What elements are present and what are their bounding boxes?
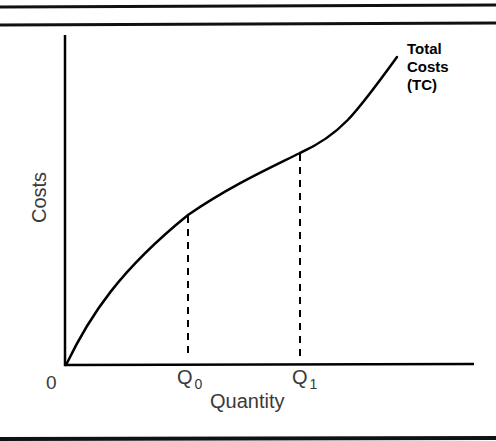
bottom-border — [0, 438, 496, 439]
q1-subscript: 1 — [310, 376, 318, 392]
legend-line-2: Costs — [407, 58, 449, 76]
x-axis-label: Quantity — [210, 390, 284, 413]
q0-subscript: 0 — [195, 376, 203, 392]
top-border-outer — [0, 5, 496, 7]
q1-label: Q1 — [292, 366, 317, 389]
x-axis — [64, 364, 474, 365]
q1-main: Q — [292, 366, 308, 388]
q0-label: Q0 — [177, 366, 202, 389]
series-label-total-costs: Total Costs (TC) — [407, 40, 449, 94]
legend-line-3: (TC) — [407, 76, 449, 94]
y-axis-label: Costs — [28, 172, 51, 223]
origin-label: 0 — [46, 372, 57, 394]
top-border-inner — [0, 23, 496, 25]
q0-main: Q — [177, 366, 193, 388]
legend-line-1: Total — [407, 40, 449, 58]
total-cost-curve — [66, 57, 397, 365]
